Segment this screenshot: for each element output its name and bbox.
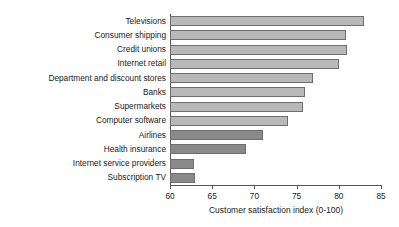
tick-mark xyxy=(170,185,171,189)
category-label: Credit unions xyxy=(0,44,166,54)
bar xyxy=(170,159,194,169)
bar xyxy=(170,102,303,112)
category-label: Health insurance xyxy=(0,144,166,154)
tick-label: 80 xyxy=(324,191,354,201)
tick-label: 75 xyxy=(282,191,312,201)
tick-mark xyxy=(339,185,340,189)
bar xyxy=(170,87,305,97)
bar xyxy=(170,144,246,154)
category-label: Internet service providers xyxy=(0,158,166,168)
bar-row xyxy=(170,43,381,57)
bar-row xyxy=(170,100,381,114)
tick-label: 70 xyxy=(239,191,269,201)
bar xyxy=(170,45,347,55)
category-label: Department and discount stores xyxy=(0,73,166,83)
plot-area xyxy=(170,14,381,185)
bar xyxy=(170,30,346,40)
bar xyxy=(170,73,313,83)
category-label: Airlines xyxy=(0,130,166,140)
bar-row xyxy=(170,57,381,71)
bar-row xyxy=(170,14,381,28)
bar xyxy=(170,173,195,183)
bar-row xyxy=(170,142,381,156)
category-label: Computer software xyxy=(0,115,166,125)
bar-row xyxy=(170,28,381,42)
bar-row xyxy=(170,157,381,171)
tick-label: 65 xyxy=(197,191,227,201)
category-label: Subscription TV xyxy=(0,172,166,182)
bar-row xyxy=(170,128,381,142)
category-label: Supermarkets xyxy=(0,101,166,111)
bar xyxy=(170,16,364,26)
bar-row xyxy=(170,114,381,128)
category-label: Consumer shipping xyxy=(0,30,166,40)
x-axis-line xyxy=(170,185,382,186)
tick-mark xyxy=(297,185,298,189)
category-label: Televisions xyxy=(0,16,166,26)
x-axis-title: Customer satisfaction index (0-100) xyxy=(170,205,382,216)
tick-mark xyxy=(381,185,382,189)
tick-label: 60 xyxy=(155,191,185,201)
bar xyxy=(170,116,288,126)
category-label: Banks xyxy=(0,87,166,97)
tick-mark xyxy=(254,185,255,189)
tick-mark xyxy=(212,185,213,189)
bar-row xyxy=(170,171,381,185)
bar xyxy=(170,130,263,140)
category-label: Internet retail xyxy=(0,58,166,68)
bar-row xyxy=(170,85,381,99)
tick-label: 85 xyxy=(366,191,396,201)
bar-chart: TelevisionsConsumer shippingCredit union… xyxy=(0,0,399,227)
bar-row xyxy=(170,71,381,85)
bar xyxy=(170,59,339,69)
